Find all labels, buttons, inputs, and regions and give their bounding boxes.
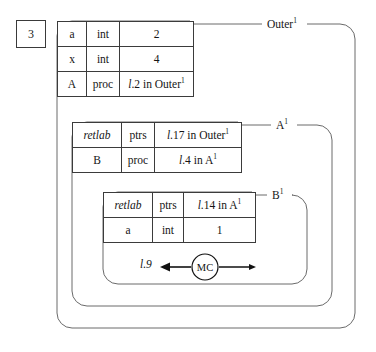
- label-line-text: .14 in A: [201, 199, 238, 211]
- label-line-sup: 1: [225, 127, 229, 136]
- cell-value: l.2 in Outer1: [120, 72, 194, 97]
- cell-name: a: [58, 22, 87, 47]
- label-line-sup: 1: [181, 76, 185, 85]
- cell-value: 4: [120, 47, 194, 72]
- label-line-text: .9: [143, 258, 152, 270]
- mc-left-target-label: l.9: [140, 258, 152, 270]
- scope-label-outer: Outer1: [263, 18, 301, 30]
- scope-label-a: A1: [272, 119, 292, 131]
- cell-kind: int: [87, 47, 120, 72]
- label-line-text: .17 in Outer: [170, 129, 225, 141]
- step-number-box: 3: [16, 20, 46, 48]
- table-row: a int 1: [104, 218, 256, 243]
- table-row: B proc l.4 in A1: [73, 148, 242, 173]
- cell-name: retlab: [104, 193, 153, 218]
- scope-label-b-sup: 1: [280, 187, 284, 196]
- cell-name: a: [104, 218, 153, 243]
- label-line-sup: 1: [238, 197, 242, 206]
- cell-value: l.14 in A1: [184, 193, 256, 218]
- cell-kind: ptrs: [122, 123, 155, 148]
- table-row: x int 4: [58, 47, 194, 72]
- table-row: A proc l.2 in Outer1: [58, 72, 194, 97]
- mc-node-label: MC: [192, 258, 218, 276]
- cell-value: 1: [184, 218, 256, 243]
- cell-kind: ptrs: [153, 193, 184, 218]
- table-row: retlab ptrs l.14 in A1: [104, 193, 256, 218]
- b-symbol-table: retlab ptrs l.14 in A1 a int 1: [103, 192, 256, 243]
- scope-label-b: B1: [268, 189, 287, 201]
- scope-label-a-sup: 1: [284, 117, 288, 126]
- scope-label-outer-text: Outer: [267, 18, 293, 30]
- table-row: retlab ptrs l.17 in Outer1: [73, 123, 242, 148]
- cell-kind: proc: [122, 148, 155, 173]
- label-line-text: .2 in Outer: [131, 78, 181, 90]
- cell-name: x: [58, 47, 87, 72]
- label-line-text: .4 in A: [182, 154, 213, 166]
- a-symbol-table: retlab ptrs l.17 in Outer1 B proc l.4 in…: [72, 122, 242, 173]
- cell-value: l.17 in Outer1: [155, 123, 242, 148]
- cell-name: B: [73, 148, 122, 173]
- scope-label-b-text: B: [272, 189, 280, 201]
- cell-name: retlab: [73, 123, 122, 148]
- diagram-canvas: 3 Outer1 A1 B1 a int 2 x int 4 A proc l.…: [0, 0, 376, 352]
- cell-kind: proc: [87, 72, 120, 97]
- cell-value: 2: [120, 22, 194, 47]
- cell-value: l.4 in A1: [155, 148, 242, 173]
- cell-name: A: [58, 72, 87, 97]
- cell-kind: int: [87, 22, 120, 47]
- outer-symbol-table: a int 2 x int 4 A proc l.2 in Outer1: [57, 21, 194, 97]
- scope-label-outer-sup: 1: [293, 16, 297, 25]
- label-line-sup: 1: [213, 152, 217, 161]
- table-row: a int 2: [58, 22, 194, 47]
- step-number-value: 3: [28, 27, 34, 42]
- cell-kind: int: [153, 218, 184, 243]
